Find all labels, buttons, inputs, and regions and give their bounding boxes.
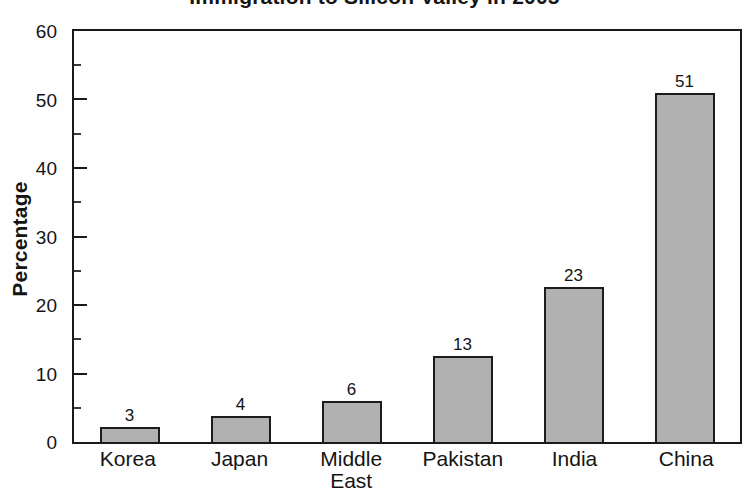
x-axis-label: Korea [84, 448, 172, 492]
bar-india [544, 287, 604, 442]
x-label-slot: Japan [184, 448, 296, 492]
bar-slot: 3 [74, 407, 185, 442]
y-tick-label: 40 [36, 159, 57, 178]
bar-value-label: 4 [236, 396, 245, 413]
bar-pakistan [433, 356, 493, 442]
x-axis-label: Japan [196, 448, 284, 492]
figure: Immigration to Silicon Valley in 2005 Pe… [0, 0, 749, 498]
bar-china [655, 93, 715, 442]
x-label-slot: Pakistan [407, 448, 519, 492]
bar-value-label: 13 [453, 336, 472, 353]
x-axis-label: India [531, 448, 619, 492]
x-label-slot: India [519, 448, 631, 492]
bar-korea [100, 427, 160, 442]
bar-value-label: 3 [125, 407, 134, 424]
chart-title: Immigration to Silicon Valley in 2005 [0, 0, 749, 7]
bar-middle-east [322, 401, 382, 442]
bars: 346132351 [74, 31, 740, 442]
y-tick-label: 0 [46, 433, 57, 452]
x-label-slot: China [630, 448, 742, 492]
x-axis-labels: KoreaJapanMiddle EastPakistanIndiaChina [72, 448, 742, 492]
bar-value-label: 23 [564, 267, 583, 284]
bar-slot: 4 [185, 396, 296, 442]
bar-slot: 23 [518, 267, 629, 442]
y-tick-label: 60 [36, 22, 57, 41]
bar-value-label: 51 [675, 73, 694, 90]
plot-area: 346132351 [72, 29, 742, 444]
bar-slot: 13 [407, 336, 518, 442]
x-axis-label: Middle East [307, 448, 395, 492]
x-axis-label: Pakistan [419, 448, 507, 492]
y-tick-label: 50 [36, 90, 57, 109]
y-axis-labels: 0102030405060 [0, 29, 64, 444]
bar-japan [211, 416, 271, 442]
bar-slot: 51 [629, 73, 740, 442]
x-label-slot: Middle East [295, 448, 407, 492]
y-tick-label: 20 [36, 296, 57, 315]
y-tick-label: 30 [36, 227, 57, 246]
bar-slot: 6 [296, 381, 407, 442]
y-tick-label: 10 [36, 364, 57, 383]
x-axis-label: China [642, 448, 730, 492]
bar-value-label: 6 [347, 381, 356, 398]
x-label-slot: Korea [72, 448, 184, 492]
